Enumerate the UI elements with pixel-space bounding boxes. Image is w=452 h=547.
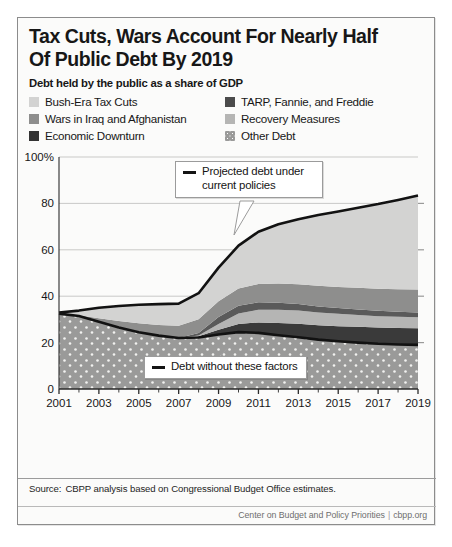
legend-item-other-debt: Other Debt xyxy=(225,129,425,142)
plot-area: 020406080100%200120032005200720092011201… xyxy=(18,149,436,427)
x-axis-tick-label: 2005 xyxy=(126,397,152,409)
x-axis-tick-label: 2001 xyxy=(46,397,72,409)
legend-swatch-icon xyxy=(225,114,235,124)
chart-figure: Tax Cuts, Wars Account For Nearly Half O… xyxy=(17,17,435,525)
chart-legend: Bush-Era Tax Cuts TARP, Fannie, and Fred… xyxy=(29,93,425,144)
annotation-projected-debt: Projected debt under current policies xyxy=(175,161,323,197)
x-axis-tick-label: 2013 xyxy=(286,397,312,409)
line-sample-icon xyxy=(152,366,165,369)
source-text: CBPP analysis based on Congressional Bud… xyxy=(65,483,335,494)
legend-label: Economic Downturn xyxy=(45,129,145,142)
legend-label: TARP, Fannie, and Freddie xyxy=(241,95,374,108)
page-title: Tax Cuts, Wars Account For Nearly Half O… xyxy=(18,18,434,70)
legend-swatch-dotted-icon xyxy=(225,131,235,141)
annotation-text: Debt without these factors xyxy=(171,360,298,374)
credit-separator: | xyxy=(388,510,390,520)
annotation-debt-without-factors: Debt without these factors xyxy=(144,356,307,379)
x-axis-tick-label: 2007 xyxy=(166,397,192,409)
line-sample-icon xyxy=(183,171,196,174)
title-line-1: Tax Cuts, Wars Account For Nearly Half xyxy=(29,25,423,48)
y-axis-tick-label: 80 xyxy=(41,198,54,210)
legend-item-recovery-measures: Recovery Measures xyxy=(225,112,425,125)
legend-swatch-icon xyxy=(225,97,235,107)
x-axis-tick-label: 2009 xyxy=(206,397,232,409)
chart-subtitle: Debt held by the public as a share of GD… xyxy=(29,77,434,89)
legend-swatch-icon xyxy=(29,131,39,141)
legend-label: Wars in Iraq and Afghanistan xyxy=(45,112,186,125)
source-label: Source: xyxy=(29,483,61,494)
x-axis-tick-label: 2019 xyxy=(405,397,431,409)
y-axis-tick-label: 40 xyxy=(41,290,54,302)
y-axis-tick-label: 60 xyxy=(41,244,54,256)
y-axis-tick-label: 20 xyxy=(41,337,54,349)
legend-item-bush-era-tax-cuts: Bush-Era Tax Cuts xyxy=(29,95,225,108)
legend-swatch-icon xyxy=(29,97,39,107)
x-axis-tick-label: 2017 xyxy=(365,397,391,409)
legend-label: Other Debt xyxy=(241,129,295,142)
legend-item-wars-iraq-afghanistan: Wars in Iraq and Afghanistan xyxy=(29,112,225,125)
legend-swatch-icon xyxy=(29,114,39,124)
y-axis-tick-label: 0 xyxy=(48,383,54,395)
title-line-2: Of Public Debt By 2019 xyxy=(29,48,423,71)
x-axis-tick-label: 2015 xyxy=(325,397,351,409)
legend-item-economic-downturn: Economic Downturn xyxy=(29,129,225,142)
x-axis-tick-label: 2003 xyxy=(86,397,112,409)
credit-organization: Center on Budget and Policy Priorities xyxy=(238,510,385,520)
credit-bar: Center on Budget and Policy Priorities|c… xyxy=(18,506,436,520)
x-axis-tick-label: 2011 xyxy=(246,397,271,409)
credit-website[interactable]: cbpp.org xyxy=(393,510,427,520)
legend-label: Bush-Era Tax Cuts xyxy=(45,95,137,108)
legend-label: Recovery Measures xyxy=(241,112,340,125)
source-note: Source:CBPP analysis based on Congressio… xyxy=(18,478,436,498)
annotation-text: Projected debt under current policies xyxy=(202,165,314,192)
legend-item-tarp-fannie-freddie: TARP, Fannie, and Freddie xyxy=(225,95,425,108)
y-axis-tick-label: 100% xyxy=(25,151,54,163)
